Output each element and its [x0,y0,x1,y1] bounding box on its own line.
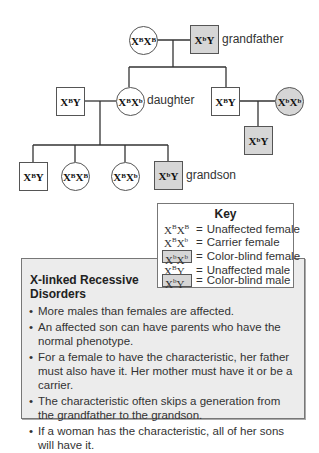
key-symbol: XBXb [162,236,192,249]
allele-base: X [144,35,152,47]
allele-sup: b [134,172,138,180]
allele-base: Y [36,171,44,183]
allele-sup: B [68,97,73,105]
allele-sup: B [83,172,88,180]
key-equals: = [196,274,203,286]
grandchild-2-node: XBXB [61,162,90,191]
key-row-colorblind-female: XbXb = Color-blind female [162,249,300,263]
allele-base: X [113,171,121,183]
allele-sup: B [121,172,126,180]
allele-sup: b [185,236,189,244]
key-row-colorblind-male: XbY = Color-blind male [162,273,290,287]
key-symbol-shaded: XbXb [162,250,192,263]
info-item-text: The characteristic often skips a generat… [38,395,280,421]
grandchild-1-node: XBY [19,162,48,191]
allele-sup: b [257,136,261,144]
info-item-text: If a woman has the characteristic, all o… [38,425,284,451]
allele-sup: B [151,36,156,44]
allele-sup: B [223,97,228,105]
info-title: X-linked Recessive Disorders [30,273,160,301]
grandson-node: XbY [154,161,183,190]
allele-base: X [249,135,257,147]
allele-sup: B [71,172,76,180]
son-wife-node: XbXb [275,87,304,116]
bullet-icon: • [29,320,33,334]
key-description: Color-blind female [207,250,300,262]
allele-base: X [159,170,167,182]
allele-sup: b [286,97,290,105]
allele-base: Y [73,96,81,108]
info-list: •More males than females are affected. •… [29,304,298,453]
key-description: Color-blind male [207,274,291,286]
key-equals: = [196,223,203,235]
allele-base: X [126,171,134,183]
allele-base: X [118,96,126,108]
allele-base: Y [206,34,214,46]
allele-base: X [278,96,286,108]
allele-base: X [131,35,139,47]
allele-base: Y [260,135,268,147]
grandchild-3-node: XBXb [111,162,140,191]
allele-base: X [23,171,31,183]
allele-sup: B [126,97,131,105]
allele-sup: B [139,36,144,44]
key-description: Unaffected female [207,223,300,235]
allele-base: X [215,96,223,108]
allele-base: Y [176,277,184,289]
allele-sup: b [167,171,171,179]
key-title: Key [158,207,293,221]
info-item: •An affected son can have parents who ha… [29,320,298,348]
bullet-icon: • [29,424,33,438]
grandson-label: grandson [186,168,236,182]
bullet-icon: • [29,350,33,364]
allele-base: X [60,96,68,108]
allele-base: X [131,96,139,108]
daughter-label: daughter [147,93,194,107]
key-row-unaffected-female: XBXB = Unaffected female [162,222,300,236]
key-equals: = [196,250,203,262]
info-item-text: More males than females are affected. [38,305,234,317]
key-legend: Key XBXB = Unaffected female XBXb = Carr… [157,203,294,288]
allele-base: X [164,223,172,235]
daughter-node: XBXb [116,87,145,116]
key-description: Carrier female [207,236,280,248]
allele-base: X [177,236,185,248]
info-item: •If a woman has the characteristic, all … [29,424,298,452]
allele-sup: b [297,97,301,105]
allele-sup: b [139,97,143,105]
grandmother-node: XBXB [129,26,158,55]
bullet-icon: • [29,394,33,408]
allele-base: Y [228,96,236,108]
allele-base: X [63,171,71,183]
info-item: •For a female to have the characteristic… [29,350,298,392]
allele-base: X [177,223,185,235]
info-item-text: For a female to have the characteristic,… [38,351,292,391]
allele-sup: B [185,223,190,231]
son-node: XBY [211,87,240,116]
allele-base: X [195,34,203,46]
allele-base: X [165,277,173,289]
allele-sup: b [184,253,188,261]
key-equals: = [196,236,203,248]
info-item: •More males than females are affected. [29,304,298,318]
key-symbol-shaded: XbY [162,274,192,287]
allele-sup: b [203,35,207,43]
key-symbol: XBXB [162,223,192,236]
grandfather-node: XbY [190,25,219,54]
key-row-carrier-female: XBXb = Carrier female [162,235,280,249]
allele-base: Y [170,170,178,182]
bullet-icon: • [29,304,33,318]
grandfather-label: grandfather [222,32,283,46]
allele-base: X [290,96,298,108]
son-child-node: XbY [244,126,273,155]
info-item: •The characteristic often skips a genera… [29,394,298,422]
allele-base: X [164,236,172,248]
allele-sup: B [31,172,36,180]
allele-base: X [76,171,84,183]
info-item-text: An affected son can have parents who hav… [38,321,281,347]
daughter-husband-node: XBY [56,87,85,116]
